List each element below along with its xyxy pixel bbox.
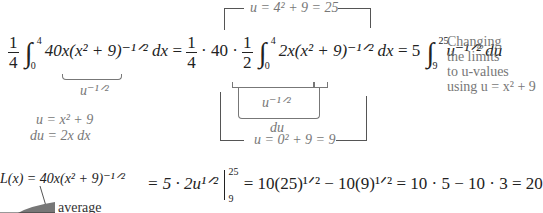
mid-integral-sign: ∫40 [259,37,267,69]
equation-top: 14 ∫40 40x(x² + 9)⁻¹ᐟ² dx = 14 · 40 · 12… [8,34,502,71]
lower-limit-arrow-right-horizontal [336,140,366,141]
mid-fraction-1: 14 [186,34,197,71]
lhs-fraction: 14 [8,34,19,71]
side-note: Changing the limits to u-values using u … [447,34,536,94]
upper-limit-arrow-left-horizontal [224,8,244,9]
mid-underbrace-label: u⁻¹ᐟ² [262,94,291,111]
lhs-underbrace [62,74,122,80]
substitution-line-1: u = x² + 9 [36,112,93,128]
evaluation-bar: 25 9 [224,170,239,200]
lower-limit-arrow-right-vertical [366,96,367,141]
upper-limit-arrow-right-horizontal [338,8,370,9]
lower-limit-arrow-left-horizontal [220,140,244,141]
substitution-line-2: du = 2x dx [30,128,90,144]
lower-limit-annotation: u = 0² + 9 = 9 [254,132,336,148]
graph-average-label: average [58,200,102,213]
upper-limit-arrow-left-vertical [224,8,225,30]
rhs-integral-sign: ∫259 [427,37,435,69]
equation-bottom: = 5 · 2u¹ᐟ² 25 9 = 10(25)¹ᐟ² − 10(9)¹ᐟ² … [147,170,543,200]
graph-function-label: L(x) = 40x(x² + 9)⁻¹ᐟ² [0,170,125,187]
lhs-underbrace-label: u⁻¹ᐟ² [80,82,109,99]
lhs-integrand: 40x(x² + 9)⁻¹ᐟ² dx [45,41,168,60]
upper-limit-arrow-right-vertical [370,8,371,28]
mid-fraction-2: 12 [242,34,253,71]
lhs-integral-sign: ∫40 [25,37,33,69]
mid-integrand: 2x(x² + 9)⁻¹ᐟ² dx [279,41,394,60]
lower-limit-arrow-left-vertical [220,92,221,140]
upper-limit-annotation: u = 4² + 9 = 25 [250,0,339,16]
